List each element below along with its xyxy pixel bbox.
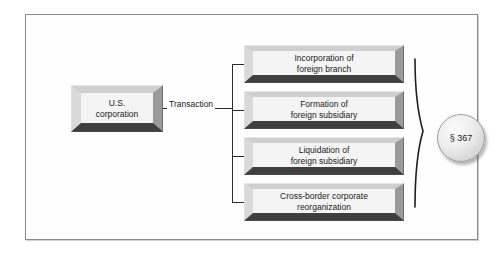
- transaction-node-liquidation[interactable]: Liquidation of foreign subsidiary: [244, 137, 404, 175]
- transaction-node-label-line1: Incorporation of: [294, 53, 353, 64]
- diagram-root: U.S. corporation Transaction Incorporati…: [0, 0, 502, 255]
- us-corporation-label-line1: U.S.: [96, 98, 139, 109]
- transaction-node-label-line2: foreign subsidiary: [291, 156, 358, 167]
- connector-branch-line: [232, 156, 244, 157]
- us-corporation-node[interactable]: U.S. corporation: [71, 85, 163, 132]
- us-corporation-label: U.S. corporation: [72, 86, 162, 131]
- transaction-node-incorporation[interactable]: Incorporation of foreign branch: [244, 45, 404, 83]
- section-367-label: § 367: [450, 133, 473, 143]
- transaction-node-label: Cross-border corporate reorganization: [245, 184, 403, 220]
- transaction-node-label: Formation of foreign subsidiary: [245, 92, 403, 128]
- right-curly-brace-icon: [412, 57, 432, 209]
- diagram-frame: U.S. corporation Transaction Incorporati…: [25, 14, 478, 240]
- connector-branch-line: [232, 64, 244, 65]
- transaction-node-label-line2: reorganization: [280, 202, 368, 213]
- transaction-node-label-line2: foreign branch: [294, 64, 353, 75]
- connector-spine-line: [232, 64, 233, 202]
- transaction-node-label: Liquidation of foreign subsidiary: [245, 138, 403, 174]
- transaction-node-label-line1: Liquidation of: [291, 145, 358, 156]
- transaction-node-reorganization[interactable]: Cross-border corporate reorganization: [244, 183, 404, 221]
- connector-branch-line: [232, 202, 244, 203]
- transaction-node-label: Incorporation of foreign branch: [245, 46, 403, 82]
- transaction-node-label-line1: Formation of: [291, 99, 358, 110]
- transaction-label: Transaction: [167, 99, 215, 109]
- transaction-node-label-line2: foreign subsidiary: [291, 110, 358, 121]
- transaction-node-formation[interactable]: Formation of foreign subsidiary: [244, 91, 404, 129]
- transaction-node-label-line1: Cross-border corporate: [280, 191, 368, 202]
- us-corporation-label-line2: corporation: [96, 109, 139, 120]
- section-367-node[interactable]: § 367: [437, 114, 485, 162]
- connector-branch-line: [232, 110, 244, 111]
